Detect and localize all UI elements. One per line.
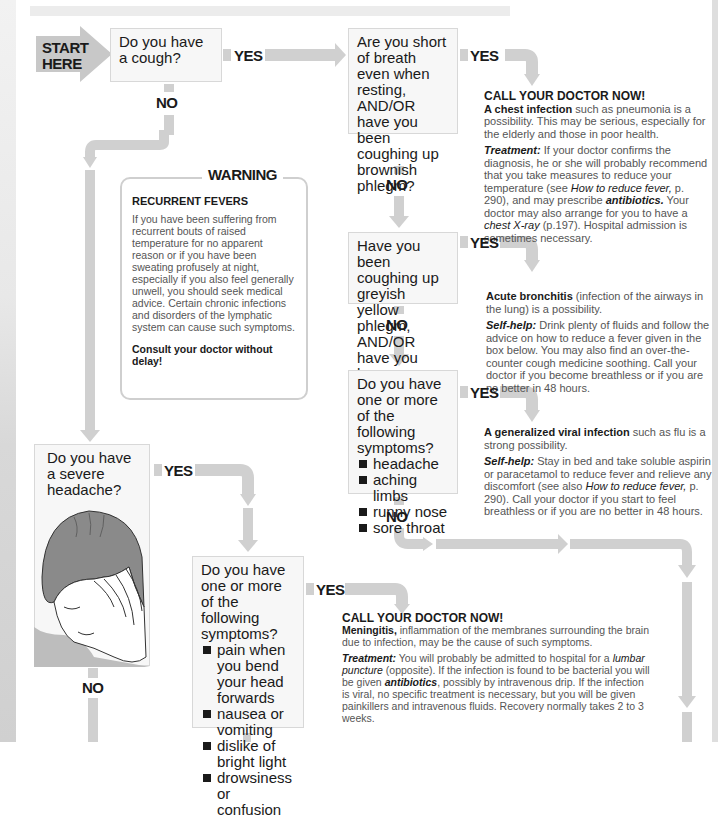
no-label-q3: NO bbox=[386, 316, 408, 333]
warning-title: WARNING bbox=[202, 166, 283, 183]
yes-label-q2: YES bbox=[470, 47, 499, 64]
list-item: aching limbs bbox=[357, 472, 449, 504]
answer-chest-infection: CALL YOUR DOCTOR NOW! A chest infection … bbox=[484, 90, 712, 248]
question-meningitis-symptoms: Do you have one or more of the following… bbox=[192, 556, 304, 728]
warning-consult: Consult your doctor without delay! bbox=[132, 343, 296, 367]
no-label-q2: NO bbox=[386, 176, 408, 193]
list-item: pain when you bend your head forwards bbox=[201, 642, 295, 706]
warning-heading: RECURRENT FEVERS bbox=[132, 195, 296, 207]
list-item: nausea or vomiting bbox=[201, 706, 295, 738]
meningitis-symptom-list: pain when you bend your head forwards na… bbox=[201, 642, 295, 818]
list-item: headache bbox=[357, 456, 449, 472]
yes-label-q3: YES bbox=[470, 234, 499, 251]
yes-label-q5: YES bbox=[164, 462, 193, 479]
warning-box: RECURRENT FEVERS If you have been suffer… bbox=[120, 177, 308, 400]
no-label-q1: NO bbox=[156, 94, 178, 111]
yes-label-q6: YES bbox=[316, 581, 345, 598]
yes-label-q1: YES bbox=[234, 47, 263, 64]
no-label-q4: NO bbox=[386, 508, 408, 525]
no-label-q5: NO bbox=[82, 679, 104, 696]
question-greyish-phlegm: Have you been coughing up greyish yellow… bbox=[348, 232, 458, 304]
question-cough: Do you have a cough? bbox=[110, 28, 222, 82]
yes-label-q4: YES bbox=[470, 384, 499, 401]
question-viral-symptoms: Do you have one or more of the following… bbox=[348, 370, 458, 494]
answer-acute-bronchitis: Acute bronchitis (infection of the airwa… bbox=[486, 290, 712, 398]
warning-body: If you have been suffering from recurren… bbox=[132, 213, 296, 333]
question-severe-headache: Do you have a severe headache? bbox=[34, 444, 150, 666]
headache-illustration-icon bbox=[34, 507, 150, 667]
start-label: START HERE bbox=[42, 40, 88, 72]
answer-viral-infection: A generalized viral infection such as fl… bbox=[484, 426, 712, 522]
list-item: dislike of bright light bbox=[201, 738, 295, 770]
question-short-of-breath: Are you short of breath even when restin… bbox=[348, 28, 458, 134]
answer-meningitis: CALL YOUR DOCTOR NOW! Meningitis, inflam… bbox=[342, 612, 652, 728]
start-here-marker: START HERE bbox=[36, 26, 112, 82]
list-item: drowsiness or confusion bbox=[201, 770, 295, 818]
